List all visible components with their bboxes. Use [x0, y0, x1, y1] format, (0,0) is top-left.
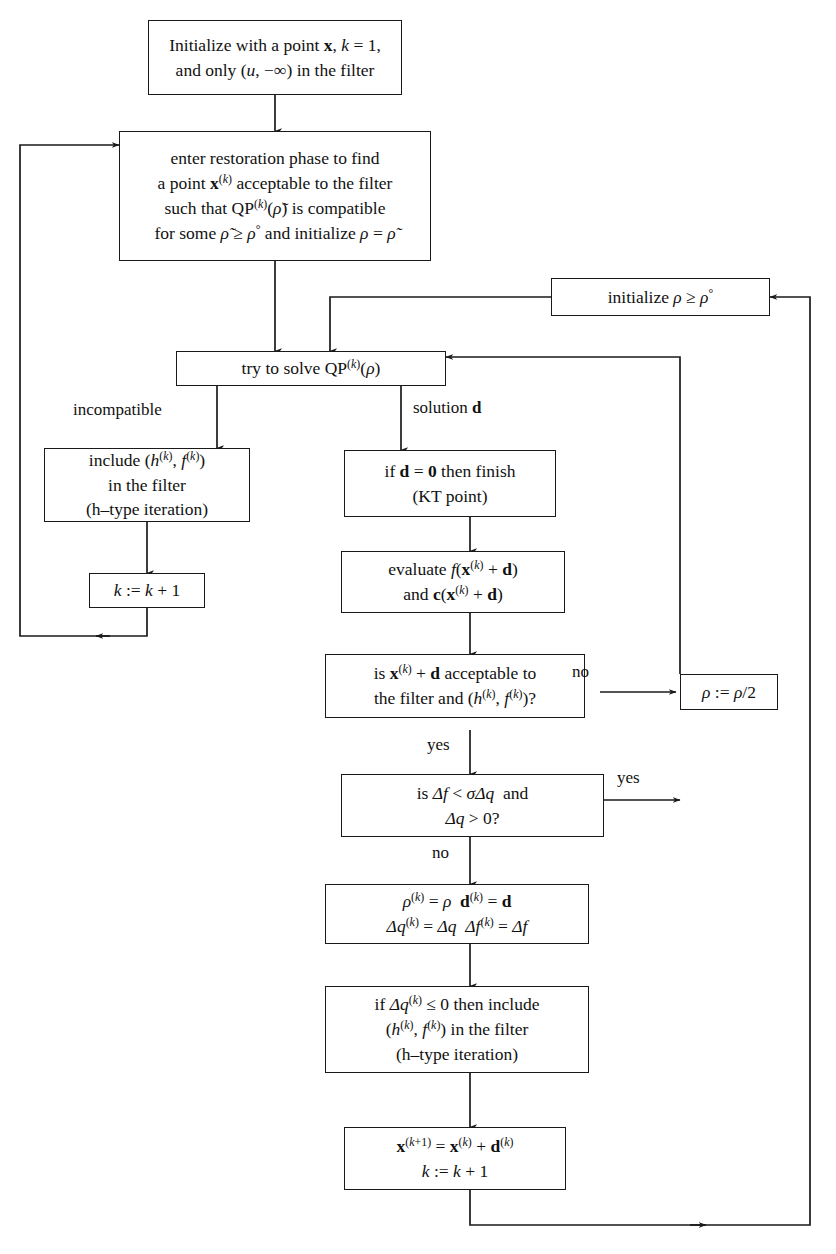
- edge-label-no-reduction: no: [432, 843, 449, 863]
- evaluate-line-1: evaluate f(x(k) + d): [388, 557, 518, 582]
- update-iterate-box[interactable]: x(k+1) = x(k) + d(k) k := k + 1: [344, 1127, 566, 1190]
- wire-updatex-loop-right: [470, 297, 810, 1225]
- edge-label-yes-acceptable: yes: [427, 735, 450, 755]
- acceptability-line-1: is x(k) + d acceptable to: [374, 661, 537, 686]
- rho-halve-line-1: ρ := ρ/2: [702, 680, 756, 705]
- restoration-line-4: for some ρ̃ ≥ ρ° and initialize ρ = ρ̃: [154, 221, 395, 246]
- include-line-2: in the filter: [108, 473, 186, 498]
- try-to-solve-line-1: try to solve QP(k)(ρ): [242, 356, 381, 381]
- initialize-line-1: Initialize with a point x, k = 1,: [169, 33, 381, 58]
- initialize-box[interactable]: Initialize with a point x, k = 1, and on…: [148, 20, 402, 95]
- assign-line-2: Δq(k) = Δq Δf(k) = Δf: [387, 914, 528, 939]
- include-in-filter-box[interactable]: include (h(k), f(k)) in the filter (h–ty…: [44, 448, 250, 522]
- conditional-include-line-3: (h–type iteration): [396, 1042, 518, 1067]
- sufficient-reduction-line-1: is Δf < σΔq and: [417, 781, 529, 806]
- acceptability-line-2: the filter and (h(k), f(k))?: [374, 686, 536, 711]
- evaluate-line-2: and c(x(k) + d): [403, 582, 502, 607]
- conditional-include-line-1: if Δq(k) ≤ 0 then include: [375, 992, 540, 1017]
- flowchart-canvas: Initialize with a point x, k = 1, and on…: [0, 0, 836, 1254]
- restoration-line-3: such that QP(k)(ρ̃) is compatible: [165, 196, 386, 221]
- wire-initializerho-to-trysolve: [330, 297, 551, 351]
- edge-label-no-acceptable: no: [572, 662, 589, 682]
- update-iterate-line-2: k := k + 1: [422, 1159, 488, 1184]
- try-to-solve-qp-box[interactable]: try to solve QP(k)(ρ): [176, 351, 446, 386]
- initialize-rho-line-1: initialize ρ ≥ ρ°: [608, 285, 714, 310]
- update-iterate-line-1: x(k+1) = x(k) + d(k): [397, 1134, 514, 1159]
- kt-point-line-2: (KT point): [412, 484, 487, 509]
- edge-label-yes-reduction: yes: [617, 768, 640, 788]
- assign-accepted-values-box[interactable]: ρ(k) = ρ d(k) = d Δq(k) = Δq Δf(k) = Δf: [325, 884, 589, 944]
- include-line-1: include (h(k), f(k)): [89, 448, 205, 473]
- sufficient-reduction-line-2: Δq > 0?: [445, 806, 499, 831]
- evaluate-box[interactable]: evaluate f(x(k) + d) and c(x(k) + d): [341, 551, 565, 613]
- initialize-rho-box[interactable]: initialize ρ ≥ ρ°: [551, 278, 770, 316]
- initialize-line-2: and only (u, −∞) in the filter: [176, 58, 375, 83]
- kt-point-box[interactable]: if d = 0 then finish (KT point): [344, 450, 556, 517]
- kt-point-line-1: if d = 0 then finish: [385, 459, 516, 484]
- sufficient-reduction-decision-box[interactable]: is Δf < σΔq and Δq > 0?: [341, 774, 604, 837]
- restoration-line-1: enter restoration phase to find: [171, 146, 380, 171]
- restoration-line-2: a point x(k) acceptable to the filter: [158, 171, 393, 196]
- assign-line-1: ρ(k) = ρ d(k) = d: [403, 889, 512, 914]
- conditional-include-filter-box[interactable]: if Δq(k) ≤ 0 then include (h(k), f(k)) i…: [325, 986, 589, 1073]
- rho-halve-box[interactable]: ρ := ρ/2: [680, 674, 778, 710]
- restoration-phase-box[interactable]: enter restoration phase to find a point …: [119, 131, 431, 261]
- k-increment-line-1: k := k + 1: [114, 578, 180, 603]
- conditional-include-line-2: (h(k), f(k)) in the filter: [386, 1017, 529, 1042]
- edge-label-incompatible: incompatible: [73, 400, 162, 420]
- include-line-3: (h–type iteration): [86, 497, 208, 522]
- edge-label-solution-d: solution d: [413, 398, 482, 418]
- acceptability-decision-box[interactable]: is x(k) + d acceptable to the filter and…: [325, 654, 585, 718]
- k-increment-box[interactable]: k := k + 1: [89, 573, 205, 608]
